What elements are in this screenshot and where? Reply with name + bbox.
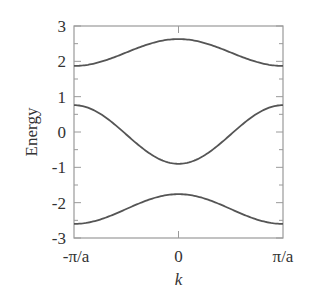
y-axis-label: Energy	[22, 107, 41, 156]
x-tick-label-zero: 0	[174, 247, 183, 266]
x-tick-label-right: π/a	[273, 247, 294, 266]
plot-area	[74, 26, 283, 238]
x-axis-label: k	[175, 270, 183, 289]
band-structure-chart: 3 2 1 0 -1 -2 -3 -π/a 0 π/a k Energy	[0, 0, 309, 303]
middle-band-curve	[74, 105, 283, 164]
lower-band-curve	[74, 194, 283, 224]
upper-band-curve	[74, 39, 283, 66]
y-axis-ticks-left	[74, 26, 81, 238]
y-axis-ticks-right	[276, 26, 283, 238]
y-tick-label: -3	[52, 229, 66, 248]
y-tick-label: -2	[52, 194, 66, 213]
x-tick-labels: -π/a 0 π/a	[63, 247, 294, 266]
plot-frame	[74, 26, 283, 238]
y-tick-label: -1	[52, 158, 66, 177]
x-tick-label-left: -π/a	[63, 247, 90, 266]
y-tick-label: 3	[58, 17, 67, 36]
y-tick-label: 1	[58, 88, 67, 107]
y-tick-label: 2	[58, 52, 67, 71]
energy-bands	[74, 39, 283, 224]
y-tick-labels: 3 2 1 0 -1 -2 -3	[52, 17, 66, 248]
y-tick-label: 0	[58, 123, 67, 142]
